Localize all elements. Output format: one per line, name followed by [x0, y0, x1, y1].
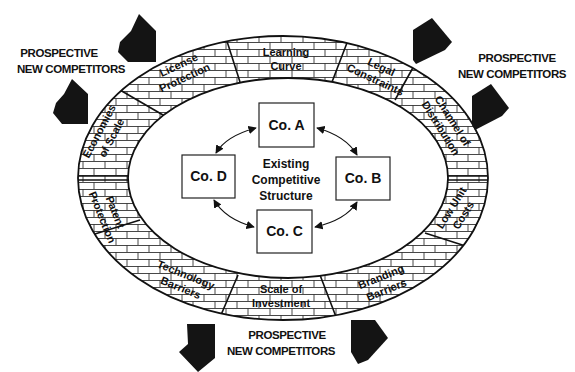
competitive-barriers-diagram: Learning Curve Legal Constraints Channel… [0, 0, 575, 372]
company-box-d: Co. D [182, 155, 235, 198]
entrant-top-right-line1: PROSPECTIVE [478, 52, 556, 64]
company-box-c: Co. C [257, 210, 312, 253]
entrant-bottom-line1: PROSPECTIVE [248, 329, 326, 341]
center-label: Existing Competitive Structure [252, 157, 321, 203]
company-a-label: Co. A [268, 117, 304, 133]
arrow-a-d [216, 128, 256, 153]
company-b-label: Co. B [345, 170, 382, 186]
barrier-scale-of-investment-line1: Scale of [260, 283, 303, 295]
arrow-b-c [315, 202, 357, 227]
center-label-line1: Existing [263, 157, 310, 171]
entrant-arrow-top-right-upper [413, 18, 452, 64]
barrier-scale-of-investment-line2: Investment [252, 297, 310, 309]
entrant-arrow-top-right-lower [472, 84, 509, 130]
barrier-learning-curve-line2: Curve [270, 60, 301, 72]
entrant-arrow-bottom-right [351, 320, 388, 364]
company-c-label: Co. C [266, 223, 303, 239]
existing-competitors: Co. A Co. B Co. C Co. D Existing Competi… [182, 103, 390, 253]
entrant-bottom-line2: NEW COMPETITORS [227, 345, 336, 357]
entrant-top-left-line2: NEW COMPETITORS [17, 63, 126, 75]
company-d-label: Co. D [190, 168, 227, 184]
barrier-learning-curve-line1: Learning [263, 46, 309, 58]
entrant-arrow-top-left-lower [53, 79, 88, 124]
entrant-top-left-line1: PROSPECTIVE [20, 47, 98, 59]
company-box-b: Co. B [336, 157, 390, 200]
entrant-top-right-line2: NEW COMPETITORS [458, 68, 567, 80]
arrow-d-c [214, 200, 254, 227]
company-box-a: Co. A [259, 103, 314, 147]
entrant-arrow-top-left-upper [118, 14, 156, 62]
center-label-line3: Structure [259, 189, 313, 203]
arrow-a-b [317, 128, 357, 155]
entrant-arrow-bottom-left [179, 324, 215, 372]
center-label-line2: Competitive [252, 173, 321, 187]
